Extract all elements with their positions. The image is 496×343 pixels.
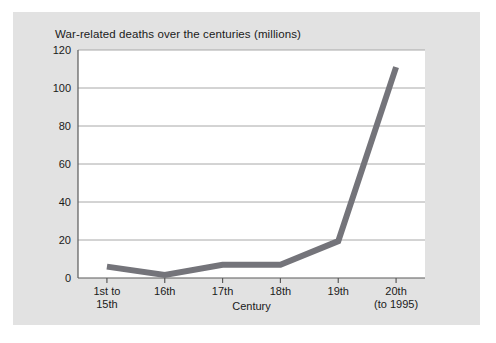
- y-tick-label: 40: [31, 196, 71, 208]
- y-tick-label: 120: [31, 44, 71, 56]
- figure-panel: War-related deaths over the centuries (m…: [13, 12, 480, 325]
- x-axis-title: Century: [182, 300, 322, 312]
- y-tick-label: 0: [31, 272, 71, 284]
- x-tick-marks: [107, 278, 396, 283]
- y-tick-label: 60: [31, 158, 71, 170]
- y-tick-label: 80: [31, 120, 71, 132]
- y-tick-label: 20: [31, 234, 71, 246]
- chart-svg: [13, 12, 480, 325]
- plot-area: 020406080100120 1st to 15th16th17th18th1…: [13, 12, 480, 325]
- y-tick-label: 100: [31, 82, 71, 94]
- x-tick-label: 20th (to 1995): [356, 285, 436, 310]
